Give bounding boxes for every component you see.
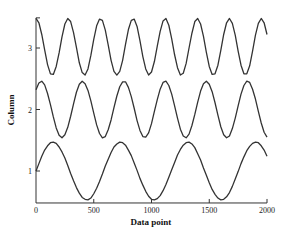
x-axis-title: Data point [131, 217, 172, 227]
y-tick-label: 1 [28, 167, 32, 176]
plot-area: 123 0500100015002000 [28, 18, 275, 215]
series-line-column-1 [36, 142, 267, 200]
x-tick-label: 1500 [201, 206, 217, 215]
y-axis-line [36, 18, 40, 203]
x-axis-ticks: 0500100015002000 [34, 199, 275, 215]
series-group [36, 18, 267, 199]
x-tick-label: 500 [88, 206, 100, 215]
series-line-column-2 [36, 81, 267, 138]
series-line-column-3 [36, 18, 267, 75]
x-tick-label: 0 [34, 206, 38, 215]
y-tick-label: 3 [28, 44, 32, 53]
y-tick-label: 2 [28, 106, 32, 115]
x-tick-label: 1000 [144, 206, 160, 215]
x-tick-label: 2000 [259, 206, 275, 215]
y-axis-title: Column [6, 94, 16, 125]
y-axis-ticks: 123 [28, 44, 40, 176]
sinusoid-line-chart: 123 0500100015002000 Data point Column [0, 0, 286, 237]
